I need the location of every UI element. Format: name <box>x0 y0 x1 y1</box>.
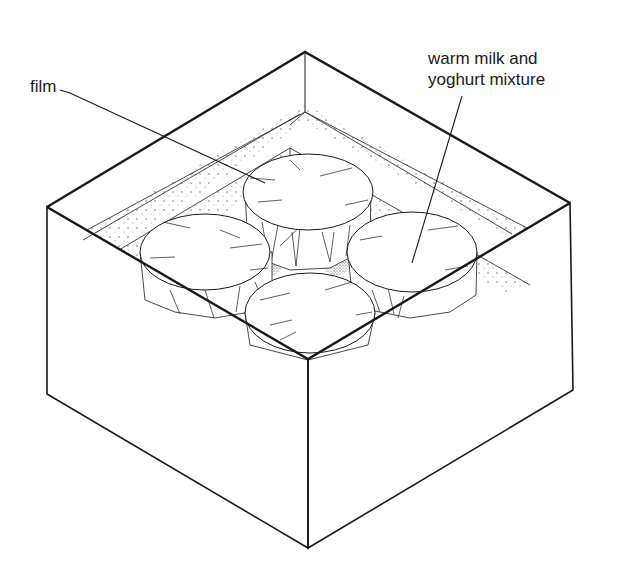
jar-front-lid <box>245 273 375 353</box>
jar-back-lid <box>243 154 373 230</box>
label-mixture: warm milk and yoghurt mixture <box>428 48 545 90</box>
yoghurt-box-diagram: film warm milk and yoghurt mixture <box>0 0 619 585</box>
label-film: film <box>30 76 56 97</box>
label-mixture-line2: yoghurt mixture <box>428 69 545 90</box>
jar-left-lid <box>140 214 270 290</box>
jar-front <box>245 273 375 360</box>
jar-right-lid <box>347 212 477 292</box>
label-mixture-line1: warm milk and <box>428 48 545 69</box>
